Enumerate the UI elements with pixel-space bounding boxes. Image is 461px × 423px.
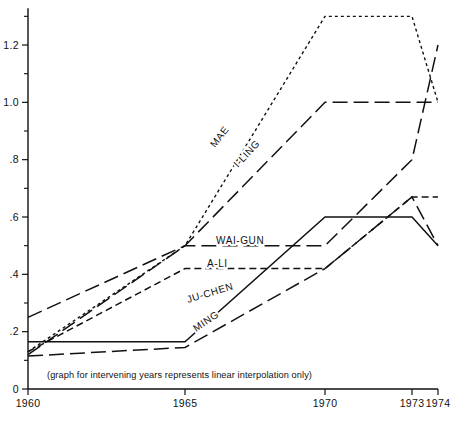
x-axis-tick-label: 1965 — [173, 397, 198, 409]
chart-note: (graph for intervening years represents … — [47, 370, 312, 380]
series-label-a-li: A-LIA-LI — [207, 258, 228, 269]
series-label-wai-gun: WAI-GUNWAI-GUN — [216, 235, 264, 246]
series-label-text: I-LING — [231, 138, 262, 170]
x-axis-tick-label: 1960 — [16, 397, 41, 409]
x-axis-tick-label: 1973 — [400, 397, 425, 409]
y-axis-tick-label: .6 — [9, 211, 19, 223]
x-axis-tick-label: 1970 — [313, 397, 338, 409]
y-axis-tick-label: 1.0 — [3, 96, 19, 108]
line-chart: 0.2.4.6.81.01.2 19601965197019731974 MAE… — [0, 0, 461, 423]
y-axis-tick-labels: 0.2.4.6.81.01.2 — [3, 39, 19, 395]
series-label-ju-chen: JU-CHENJU-CHEN — [185, 280, 234, 305]
series-label-mae: MAEMAE — [208, 124, 231, 149]
y-axis-tick-label: .2 — [9, 325, 19, 337]
series-label-text: WAI-GUN — [216, 235, 264, 246]
series-lines — [28, 16, 438, 356]
x-axis-ticks — [28, 389, 438, 395]
y-axis-tick-label: .4 — [9, 268, 19, 280]
series-line-wai-gun — [28, 45, 438, 317]
series-label-text: JU-CHEN — [185, 280, 234, 305]
y-axis-tick-label: 0 — [13, 383, 19, 395]
axes-group — [28, 8, 438, 389]
y-axis-tick-label: .8 — [9, 153, 19, 165]
x-axis-tick-label: 1974 — [426, 397, 451, 409]
y-axis-tick-label: 1.2 — [3, 39, 19, 51]
series-inline-labels: MAEMAEI-LINGI-LINGWAI-GUNWAI-GUNA-LIA-LI… — [185, 124, 264, 334]
series-label-i-ling: I-LINGI-LING — [231, 138, 262, 170]
series-line-mae — [28, 16, 438, 351]
series-line-ming — [28, 197, 438, 356]
x-axis-tick-labels: 19601965197019731974 — [16, 397, 451, 409]
series-line-i-ling — [28, 102, 438, 354]
series-label-text: MAE — [208, 124, 231, 149]
series-label-text: A-LI — [207, 258, 228, 269]
y-axis-ticks — [22, 16, 28, 389]
series-line-a-li — [28, 197, 438, 352]
chart-container: 0.2.4.6.81.01.2 19601965197019731974 MAE… — [0, 0, 461, 423]
